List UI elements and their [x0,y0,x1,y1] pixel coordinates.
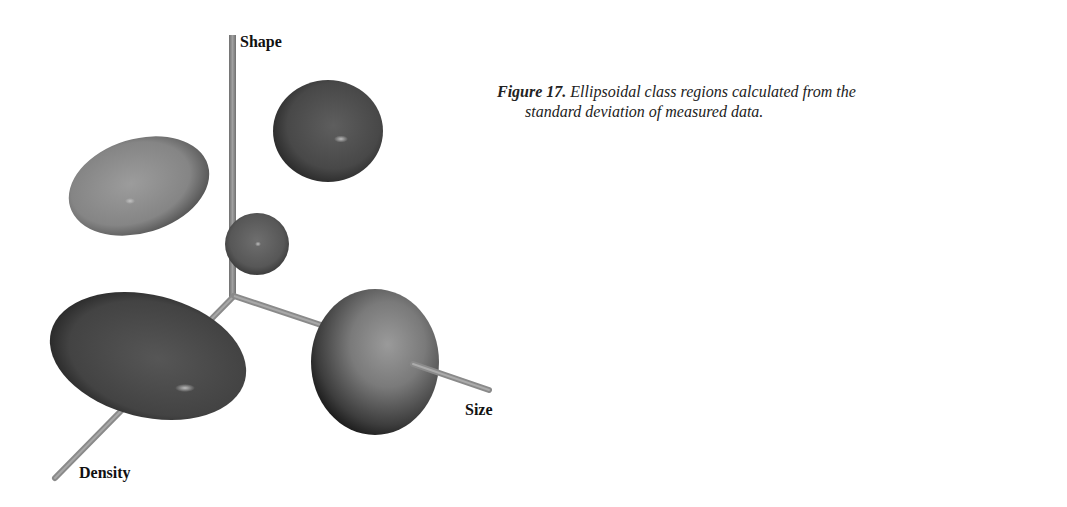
ellipsoid-dark-upper-right [273,80,383,182]
size-axis-label: Size [465,401,493,419]
density-axis-label: Density [79,464,131,482]
caption-line-1: Ellipsoidal class regions calculated fro… [570,83,855,100]
shape-axis-label: Shape [240,33,282,51]
figure-caption: Figure 17. Ellipsoidal class regions cal… [497,82,977,122]
sphere-lower-right [311,289,439,435]
ellipsoid-light-upper-left [56,120,221,252]
3d-ellipsoid-diagram [0,0,1067,507]
size-axis-rod-back [234,296,330,328]
figure-number: Figure 17. [497,83,566,100]
sphere-small-center [225,213,289,275]
caption-line-2: standard deviation of measured data. [497,102,977,122]
ellipsoid-large-dark-lower-left [36,273,260,440]
